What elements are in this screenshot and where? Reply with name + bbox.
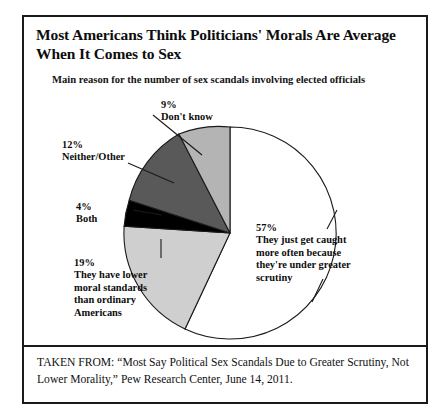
- pie-label-both: 4% Both: [76, 201, 97, 226]
- pie-label-caught: 57% They just get caught more often beca…: [256, 222, 351, 284]
- source-note: TAKEN FROM: “Most Say Political Sex Scan…: [37, 355, 415, 388]
- pie-label-lower-standards-line-4: Americans: [74, 307, 147, 319]
- pie-label-caught-line-4: scrutiny: [256, 272, 351, 284]
- pie-label-dont-know-text: Don't know: [161, 111, 213, 123]
- pie-label-caught-line-2: more often because: [256, 247, 351, 259]
- pie-label-neither-other-percent: 12%: [62, 139, 125, 151]
- pie-label-lower-standards-line-2: moral standards: [74, 282, 147, 294]
- pie-label-lower-standards-line-3: than ordinary: [74, 294, 147, 306]
- pie-label-lower-standards-line-1: They have lower: [74, 269, 147, 281]
- pie-label-lower-standards: 19% They have lower moral standards than…: [74, 257, 147, 319]
- footer-divider: [24, 345, 426, 347]
- figure-frame: Most Americans Think Politicians' Morals…: [22, 15, 428, 404]
- pie-label-both-text: Both: [76, 213, 97, 225]
- pie-label-dont-know-percent: 9%: [161, 99, 213, 111]
- pie-label-lower-standards-percent: 19%: [74, 257, 147, 269]
- pie-label-caught-line-3: they're under greater: [256, 259, 351, 271]
- pie-label-caught-percent: 57%: [256, 222, 351, 234]
- pie-label-both-percent: 4%: [76, 201, 97, 213]
- pie-label-dont-know: 9% Don't know: [161, 99, 213, 124]
- pie-label-neither-other-text: Neither/Other: [62, 151, 125, 163]
- pie-chart: 9% Don't know 12% Neither/Other 4% Both …: [24, 17, 430, 343]
- pie-label-neither-other: 12% Neither/Other: [62, 139, 125, 164]
- pie-label-caught-line-1: They just get caught: [256, 234, 351, 246]
